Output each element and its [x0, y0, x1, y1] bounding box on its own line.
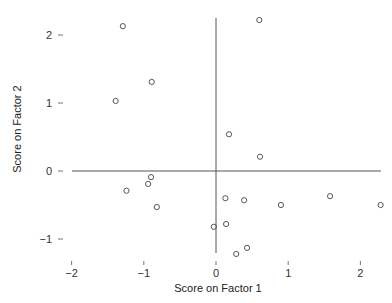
data-point-marker	[327, 194, 332, 199]
data-point-marker	[124, 188, 129, 193]
data-point-marker	[120, 24, 125, 29]
y-tick-label: 2	[46, 29, 52, 41]
data-point-marker	[149, 79, 154, 84]
data-point-marker	[242, 198, 247, 203]
y-axis-label: Score on Factor 2	[11, 85, 23, 172]
data-point-marker	[278, 202, 283, 207]
data-point-marker	[146, 181, 151, 186]
x-tick-label: 2	[357, 267, 363, 279]
y-tick-label: −1	[39, 233, 52, 245]
x-tick-label: 0	[213, 267, 219, 279]
data-point-marker	[244, 245, 249, 250]
x-tick-label: −2	[65, 267, 78, 279]
data-point-marker	[226, 132, 231, 137]
x-axis-label: Score on Factor 1	[174, 282, 261, 294]
x-axis-ticks: −2−1012	[65, 261, 363, 279]
data-point-marker	[148, 175, 153, 180]
data-points	[113, 17, 383, 256]
y-tick-label: 1	[46, 97, 52, 109]
data-point-marker	[257, 17, 262, 22]
data-point-marker	[234, 251, 239, 256]
scatter-plot: −2−1012 210−1 Score on Factor 1 Score on…	[0, 0, 392, 303]
x-tick-label: −1	[138, 267, 151, 279]
data-point-marker	[378, 202, 383, 207]
data-point-marker	[257, 154, 262, 159]
y-axis-ticks: 210−1	[39, 29, 63, 245]
data-point-marker	[223, 196, 228, 201]
data-point-marker	[113, 98, 118, 103]
data-point-marker	[224, 221, 229, 226]
x-tick-label: 1	[285, 267, 291, 279]
y-tick-label: 0	[46, 165, 52, 177]
data-point-marker	[154, 204, 159, 209]
